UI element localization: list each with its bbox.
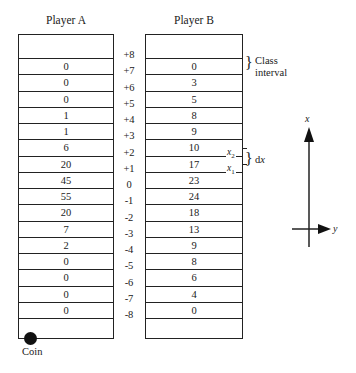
- class-interval-brace: }: [245, 54, 253, 72]
- table-row: 4: [146, 286, 242, 302]
- x-axis-label: x: [305, 113, 309, 125]
- table-row: 3: [146, 74, 242, 90]
- scale-label: +1: [114, 163, 144, 174]
- coin-label: Coin: [22, 346, 42, 358]
- table-row: 20: [19, 156, 113, 172]
- scale-label: -8: [114, 309, 144, 320]
- table-row: 8: [146, 253, 242, 269]
- table-row: 18: [146, 204, 242, 220]
- table-row: 9: [146, 123, 242, 139]
- table-row: 0: [19, 302, 113, 318]
- tick-mark: [243, 148, 247, 150]
- table-row: 6: [19, 139, 113, 155]
- player-b-title: Player B: [144, 14, 244, 26]
- table-row: 0: [19, 58, 113, 74]
- dx-label: dx: [255, 154, 265, 166]
- table-row: 8: [146, 107, 242, 123]
- scale-label: -2: [114, 212, 144, 223]
- table-row: 0: [19, 286, 113, 302]
- tick-mark: [243, 164, 247, 166]
- player-a-column: 00011620455520720000: [18, 34, 114, 339]
- scale-label: -4: [114, 244, 144, 255]
- dx-brace: }: [245, 150, 253, 168]
- scale-label: -3: [114, 228, 144, 239]
- scale-label: -5: [114, 260, 144, 271]
- table-row: 6: [146, 269, 242, 285]
- scale-label: +6: [114, 82, 144, 93]
- table-row: 0: [19, 91, 113, 107]
- class-interval-line1: Class: [255, 55, 287, 67]
- table-row: 20: [19, 204, 113, 220]
- class-interval-label: Class interval: [255, 55, 287, 79]
- scale-label: +8: [114, 49, 144, 60]
- coordinate-axes: [280, 115, 356, 255]
- table-row: 0: [146, 58, 242, 74]
- coin-icon: [24, 332, 37, 345]
- class-interval-line2: interval: [255, 67, 287, 79]
- empty-row: [146, 318, 242, 338]
- table-row: 5: [146, 91, 242, 107]
- table-row: 1: [19, 107, 113, 123]
- y-axis-label: y: [333, 223, 337, 235]
- table-row: 45: [19, 172, 113, 188]
- table-row: 1: [19, 123, 113, 139]
- scale-label: +3: [114, 130, 144, 141]
- table-row: 2: [19, 237, 113, 253]
- table-row: 13: [146, 221, 242, 237]
- x1-label: x1: [226, 162, 236, 178]
- table-row: 55: [19, 188, 113, 204]
- player-a-title: Player A: [16, 14, 116, 26]
- scale-label: +2: [114, 147, 144, 158]
- table-row: 24: [146, 188, 242, 204]
- scale-label: -1: [114, 195, 144, 206]
- scale-label: +4: [114, 114, 144, 125]
- x2-label: x2: [226, 146, 236, 162]
- scale-label: +5: [114, 98, 144, 109]
- scale-label: -6: [114, 277, 144, 288]
- table-row: 7: [19, 221, 113, 237]
- table-row: 0: [19, 269, 113, 285]
- scale-label: +7: [114, 65, 144, 76]
- table-row: 9: [146, 237, 242, 253]
- table-row: 0: [146, 302, 242, 318]
- player-b-column: 0358910172324181398640: [145, 34, 243, 339]
- scale-label: 0: [114, 179, 144, 190]
- table-row: 0: [19, 253, 113, 269]
- table-row: 0: [19, 74, 113, 90]
- scale-label: -7: [114, 293, 144, 304]
